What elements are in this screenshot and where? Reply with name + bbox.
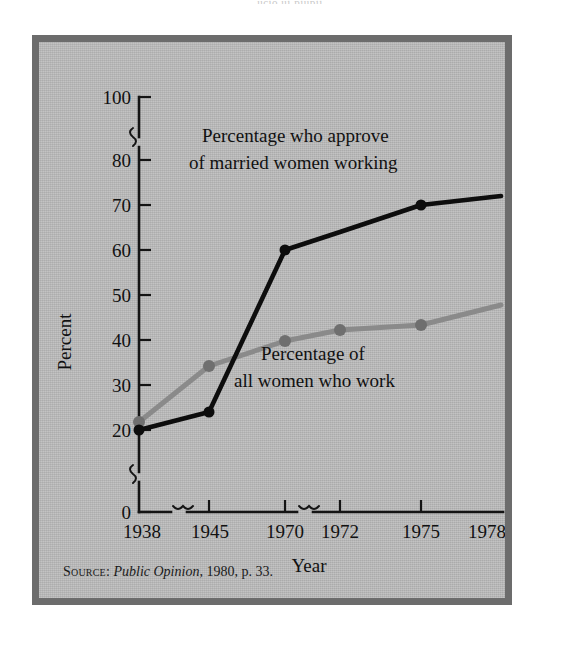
series-label-all-women-line1: Percentage of [261, 343, 366, 364]
y-tick-label-0: 0 [122, 502, 132, 523]
y-axis-title: Percent [54, 313, 75, 371]
series-label-all-women-line2: all women who work [234, 370, 395, 391]
series-point-all-women-1972 [334, 324, 346, 336]
source-rest: 1980, p. 33. [206, 564, 273, 579]
figure-frame: 100 80 70 60 50 40 30 20 0 Percent 1938 … [32, 35, 512, 605]
y-tick-label-100: 100 [103, 87, 132, 108]
y-tick-label-50: 50 [112, 285, 131, 306]
page-top-text-fragment: ucio ui piupii [0, 0, 580, 4]
y-tick-label-70: 70 [112, 195, 131, 216]
x-tick-label-1975: 1975 [402, 521, 440, 542]
x-axis-break-1-icon [173, 506, 193, 509]
series-point-approve-1938 [134, 425, 145, 436]
series-point-all-women-1975 [415, 319, 427, 331]
series-line-approve-married-women-working [139, 196, 501, 430]
x-tick-label-1945: 1945 [191, 521, 229, 542]
x-tick-label-1938: 1938 [123, 521, 161, 542]
series-point-approve-1945 [204, 407, 215, 418]
source-label: Source: [63, 564, 110, 579]
y-tick-label-80: 80 [112, 150, 131, 171]
y-tick-label-20: 20 [112, 420, 131, 441]
series-label-approve-line1: Percentage who approve [202, 125, 389, 146]
x-axis-break-2-icon [299, 506, 319, 509]
series-point-approve-1970 [280, 245, 291, 256]
y-axis-break-upper-icon [130, 128, 136, 146]
x-tick-label-1972: 1972 [321, 521, 359, 542]
series-point-all-women-1945 [203, 360, 215, 372]
x-tick-label-1970: 1970 [266, 521, 304, 542]
line-chart: 100 80 70 60 50 40 30 20 0 Percent 1938 … [39, 42, 505, 598]
y-tick-label-60: 60 [112, 240, 131, 261]
y-tick-label-30: 30 [112, 375, 131, 396]
series-point-approve-1975 [416, 200, 427, 211]
y-axis-break-lower-icon [130, 465, 136, 483]
source-publication: Public Opinion, [113, 564, 202, 579]
source-note: Source: Public Opinion, 1980, p. 33. [63, 564, 273, 580]
y-tick-label-40: 40 [112, 330, 131, 351]
series-label-approve-line2: of married women working [189, 152, 398, 173]
x-axis-title: Year [291, 555, 327, 576]
x-tick-label-1978: 1978 [468, 521, 505, 542]
